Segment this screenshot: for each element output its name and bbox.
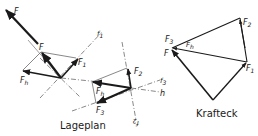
krafteck-edge-top [172, 18, 240, 48]
label-line-h: h [160, 89, 165, 98]
krafteck-arrow-F1 [213, 63, 246, 100]
line-h [131, 88, 160, 92]
arrow-F1 [61, 59, 78, 78]
krafteck-label-F2: F2 [243, 18, 252, 28]
krafteck-label-F3: F3 [165, 35, 174, 45]
arrow-F-top [6, 10, 38, 44]
label-Fh-left: Fh [20, 76, 29, 86]
lageplan-right-group: F2 Fh F3 f3 h f2 Lageplan [60, 42, 166, 131]
label-F-top: F [14, 7, 19, 16]
diagram-svg: F F F1 Fh f1 F2 Fh F3 f3 h f2 Lageplan [0, 0, 258, 136]
lageplan-left-group: F F F1 Fh f1 [6, 7, 103, 98]
label-line-f1: f1 [97, 30, 103, 39]
krafteck-arrow-F [172, 50, 213, 100]
force-diagram: F F F1 Fh f1 F2 Fh F3 f3 h f2 Lageplan [0, 0, 258, 136]
label-line-f2: f2 [133, 118, 139, 127]
line-f2 [122, 42, 136, 120]
krafteck-group: F3 F Fh F2 F1 Krafteck [164, 18, 254, 119]
right-side-top [92, 68, 127, 82]
krafteck-label-Fh: Fh [186, 41, 194, 50]
label-line-f3: f3 [160, 77, 166, 86]
caption-lageplan: Lageplan [60, 120, 106, 131]
label-F2: F2 [134, 67, 143, 77]
krafteck-arrow-Fh [173, 48, 247, 62]
label-F1: F1 [78, 58, 86, 68]
label-F-mid: F [39, 43, 44, 52]
label-F3: F3 [96, 106, 105, 116]
label-Fh-right: Fh [96, 87, 105, 97]
caption-krafteck: Krafteck [196, 108, 238, 119]
krafteck-label-F1: F1 [246, 64, 254, 74]
parallelogram-side-left [23, 52, 41, 70]
krafteck-label-F: F [164, 49, 169, 58]
